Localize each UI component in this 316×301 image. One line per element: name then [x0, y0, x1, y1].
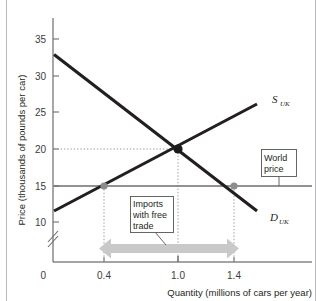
x-tick-label-0-4: 0.4 — [97, 270, 111, 281]
world-price-callout-line1: World — [264, 153, 287, 163]
y-tick-label-0: 0 — [40, 270, 46, 281]
supply-curve-label: S UK — [272, 93, 290, 108]
world-price-callout-line2: price — [264, 164, 284, 174]
y-tick-label-30: 30 — [35, 71, 47, 82]
y-axis-ticks — [53, 39, 59, 222]
imports-span-arrow — [99, 239, 239, 259]
x-axis-title: Quantity (millions of cars per year) — [167, 287, 312, 298]
imports-callout-leader — [155, 232, 166, 245]
point-no-trade-equilibrium — [173, 144, 182, 153]
supply-curve-label-sub: UK — [280, 100, 290, 108]
y-tick-label-15: 15 — [35, 181, 47, 192]
economics-chart-figure: 35 30 25 20 15 10 0 0.4 1.0 1.4 — [0, 0, 316, 301]
demand-curve-line — [54, 55, 257, 212]
demand-curve-label-sub: UK — [279, 218, 289, 226]
y-tick-label-25: 25 — [35, 107, 47, 118]
x-tick-label-1-0: 1.0 — [171, 270, 185, 281]
y-axis-title: Price (thousands of pounds per car) — [16, 74, 27, 225]
supply-curve-label-main: S — [272, 93, 278, 105]
imports-callout-line2: with free — [132, 210, 167, 220]
x-tick-label-1-4: 1.4 — [227, 270, 241, 281]
supply-curve-line — [54, 104, 257, 211]
y-tick-label-20: 20 — [35, 144, 47, 155]
point-uk-quantity-supplied — [100, 182, 107, 189]
imports-callout-line3: trade — [133, 221, 154, 231]
imports-callout-line1: Imports — [133, 199, 164, 209]
demand-curve-label: D UK — [269, 211, 289, 226]
chart-canvas: 35 30 25 20 15 10 0 0.4 1.0 1.4 — [0, 0, 316, 301]
y-tick-label-10: 10 — [35, 217, 47, 228]
y-tick-label-35: 35 — [35, 34, 47, 45]
demand-curve-label-main: D — [269, 211, 278, 223]
point-uk-quantity-demanded — [230, 182, 237, 189]
x-axis-ticks — [104, 256, 234, 262]
